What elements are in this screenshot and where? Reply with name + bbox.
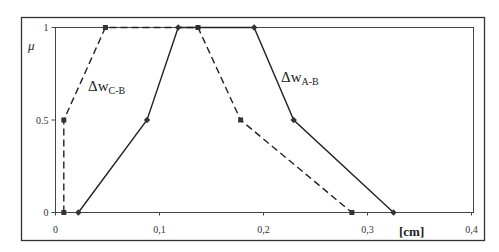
data-point-square (238, 118, 243, 123)
data-point-diamond (251, 24, 257, 30)
x-tick-label: 0,4 (465, 224, 478, 235)
y-tick-label: 0.5 (36, 115, 49, 126)
series-line-1 (78, 28, 393, 213)
series-label-a-b-main: Δw (281, 69, 302, 85)
series-line-0 (64, 28, 352, 213)
series-label-c-b: ΔwC-B (88, 78, 125, 96)
y-tick-label: 0 (44, 207, 49, 218)
x-tick-label: 0 (53, 224, 58, 235)
series-label-c-b-main: Δw (88, 78, 109, 94)
data-point-diamond (175, 24, 181, 30)
y-tick-label: 1 (44, 22, 49, 33)
x-axis-title: [cm] (399, 224, 424, 239)
x-tick-label: 0,3 (361, 224, 374, 235)
x-tick-label: 0,2 (257, 224, 270, 235)
x-tick-label: 0,1 (153, 224, 166, 235)
data-point-square (61, 210, 66, 215)
series-layer (61, 24, 396, 215)
series-label-c-b-sub: C-B (108, 85, 125, 96)
outer-frame (22, 18, 485, 241)
axes: 00,10,20,30,400.51 (36, 22, 478, 235)
fuzzy-membership-chart: 00,10,20,30,400.51 μ [cm] ΔwC-B ΔwA-B (0, 0, 499, 252)
data-point-square (349, 210, 354, 215)
plot-area (56, 28, 474, 213)
data-point-square (61, 118, 66, 123)
series-label-a-b-sub: A-B (301, 76, 319, 87)
series-label-a-b: ΔwA-B (281, 69, 319, 87)
y-axis-title: μ (27, 38, 35, 53)
data-point-square (103, 25, 108, 30)
